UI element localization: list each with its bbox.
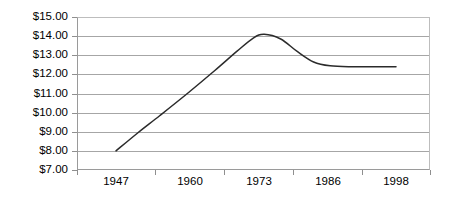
x-axis-tick (224, 170, 225, 175)
y-axis-label: $14.00 (0, 30, 68, 42)
x-axis-tick (430, 170, 431, 175)
x-axis-tick (293, 170, 294, 175)
plot-area (77, 17, 430, 170)
gridline (78, 113, 429, 114)
gridline (78, 74, 429, 75)
y-axis-label: $8.00 (0, 145, 68, 157)
x-axis-label: 1998 (383, 176, 409, 188)
chart-container: $15.00 $14.00 $13.00 $12.00 $11.00 $10.0… (0, 0, 450, 198)
x-axis-label: 1973 (246, 176, 272, 188)
x-axis-label: 1947 (103, 176, 129, 188)
y-axis-label: $15.00 (0, 11, 68, 23)
y-axis-label: $10.00 (0, 107, 68, 119)
gridline (78, 151, 429, 152)
gridline (78, 94, 429, 95)
y-axis-label: $7.00 (0, 164, 68, 176)
x-axis-label: 1986 (315, 176, 341, 188)
y-axis-label: $11.00 (0, 88, 68, 100)
gridline (78, 55, 429, 56)
gridline (78, 36, 429, 37)
x-axis-tick (362, 170, 363, 175)
x-axis-label: 1960 (177, 176, 203, 188)
y-axis: $15.00 $14.00 $13.00 $12.00 $11.00 $10.0… (0, 0, 68, 198)
y-axis-label: $13.00 (0, 49, 68, 61)
y-axis-label: $9.00 (0, 126, 68, 138)
gridline (78, 132, 429, 133)
y-axis-label: $12.00 (0, 68, 68, 80)
x-axis-tick (155, 170, 156, 175)
x-axis-tick (77, 170, 78, 175)
